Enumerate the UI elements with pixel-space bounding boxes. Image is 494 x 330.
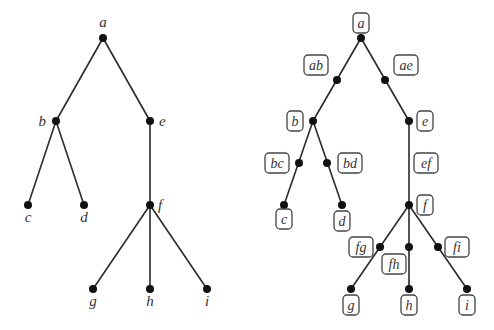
vertex-f xyxy=(405,201,413,209)
label-text-c: c xyxy=(281,212,288,227)
label-text-h: h xyxy=(406,298,413,313)
label-box-f: f xyxy=(417,195,433,215)
vertex-i xyxy=(203,285,211,293)
vertex-fg xyxy=(376,243,384,251)
vertex-label-f: f xyxy=(158,197,164,213)
vertex-f xyxy=(146,201,154,209)
vertex-label-e: e xyxy=(159,113,166,129)
label-box-i: i xyxy=(459,295,475,315)
label-text-b: b xyxy=(292,114,299,129)
vertex-fh xyxy=(405,243,413,251)
vertex-label-a: a xyxy=(99,14,107,30)
vertex-label-d: d xyxy=(80,209,88,225)
vertex-label-g: g xyxy=(89,293,97,309)
vertex-h xyxy=(146,285,154,293)
label-text-ae: ae xyxy=(399,58,412,73)
label-box-fi: fi xyxy=(445,237,469,257)
vertex-g xyxy=(89,285,97,293)
edge-ab xyxy=(56,38,103,121)
vertex-i xyxy=(463,285,471,293)
label-box-fh: fh xyxy=(382,254,406,274)
label-text-bc: bc xyxy=(270,156,284,171)
label-text-d: d xyxy=(339,214,347,229)
vertex-label-i: i xyxy=(205,293,209,309)
label-box-ae: ae xyxy=(394,55,418,75)
vertex-label-c: c xyxy=(25,209,32,225)
label-box-ef: ef xyxy=(414,153,438,173)
label-box-h: h xyxy=(401,295,417,315)
vertex-fi xyxy=(434,243,442,251)
vertex-d xyxy=(80,201,88,209)
vertex-ae xyxy=(381,76,389,84)
edge-fg xyxy=(93,205,150,289)
label-box-g: g xyxy=(343,295,359,315)
label-box-fg: fg xyxy=(349,237,373,257)
vertex-c xyxy=(24,201,32,209)
label-box-a: a xyxy=(353,13,369,33)
vertex-b xyxy=(309,117,317,125)
left-tree: abecdfghi xyxy=(24,14,211,309)
vertex-a xyxy=(357,34,365,42)
vertex-a xyxy=(99,34,107,42)
label-box-c: c xyxy=(276,209,292,229)
tree-diagrams: abecdfghi aabaebebcbdcdefffgfhfighi xyxy=(0,0,494,330)
label-text-e: e xyxy=(422,114,428,129)
edge-bc xyxy=(28,121,56,205)
label-text-i: i xyxy=(465,298,469,313)
vertex-ab xyxy=(333,76,341,84)
label-text-fh: fh xyxy=(389,257,400,272)
vertex-c xyxy=(280,201,288,209)
vertex-e xyxy=(146,117,154,125)
label-box-e: e xyxy=(417,111,433,131)
label-text-a: a xyxy=(358,16,365,31)
vertex-d xyxy=(338,201,346,209)
label-text-bd: bd xyxy=(343,156,358,171)
vertex-g xyxy=(347,285,355,293)
label-box-bc: bc xyxy=(265,153,289,173)
vertex-bc xyxy=(295,159,303,167)
label-text-fg: fg xyxy=(356,240,367,255)
label-text-g: g xyxy=(348,298,355,313)
vertex-b xyxy=(52,117,60,125)
vertex-h xyxy=(405,285,413,293)
subdivided-tree: aabaebebcbdcdefffgfhfighi xyxy=(265,13,475,315)
label-box-b: b xyxy=(287,111,303,131)
vertex-e xyxy=(405,117,413,125)
label-text-fi: fi xyxy=(453,240,461,255)
edge-fi xyxy=(150,205,207,289)
label-box-bd: bd xyxy=(338,153,362,173)
vertex-label-h: h xyxy=(146,293,154,309)
label-box-ab: ab xyxy=(304,55,328,75)
label-box-d: d xyxy=(334,211,350,231)
vertex-bd xyxy=(323,159,331,167)
edge-bd xyxy=(56,121,84,205)
vertex-label-b: b xyxy=(39,113,47,129)
label-text-ab: ab xyxy=(309,58,323,73)
edge-ae xyxy=(103,38,150,121)
